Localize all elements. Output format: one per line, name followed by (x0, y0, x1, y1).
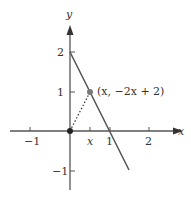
tick-label-y-1: 1 (57, 86, 64, 99)
point-on-line (87, 89, 93, 95)
line-y-eq-neg2x-plus2 (70, 52, 129, 170)
origin-point (67, 128, 73, 134)
tick-label-x-2: 2 (145, 135, 152, 148)
tick-label-y-neg1: −1 (52, 165, 68, 178)
diagram-canvas: −1 x 1 2 2 1 −1 x y (x, −2x + 2) (0, 0, 191, 197)
tick-label-y-2: 2 (57, 46, 64, 59)
tick-label-x-neg1: −1 (24, 135, 40, 148)
dotted-segment (70, 92, 90, 131)
tick-label-x-var: x (87, 135, 94, 148)
y-axis-arrow-icon (67, 25, 74, 35)
x-axis-label: x (178, 125, 185, 138)
point-annotation: (x, −2x + 2) (97, 85, 164, 98)
y-axis-label: y (65, 8, 73, 21)
